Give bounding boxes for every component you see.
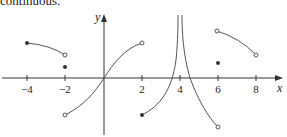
x-axis-label: x bbox=[276, 81, 283, 95]
curves bbox=[27, 15, 256, 127]
isolated-point bbox=[63, 65, 67, 69]
open-point bbox=[140, 41, 144, 45]
x-tick-labels: −4 −2 2 4 6 8 bbox=[21, 83, 259, 95]
tick-label: 8 bbox=[253, 83, 259, 95]
graph-canvas: −4 −2 2 4 6 8 x y bbox=[0, 0, 287, 137]
open-point bbox=[215, 29, 219, 33]
closed-point bbox=[140, 113, 144, 117]
segment-4 bbox=[182, 15, 218, 127]
tick-label: 2 bbox=[139, 83, 145, 95]
tick-label: −4 bbox=[21, 83, 33, 95]
piecewise-function-graph: continuous. −4 −2 2 4 6 8 x y bbox=[0, 0, 287, 137]
caption-text: continuous. bbox=[0, 0, 60, 9]
open-points bbox=[63, 29, 258, 129]
isolated-point bbox=[216, 61, 220, 65]
y-axis-label: y bbox=[94, 10, 101, 24]
y-axis-arrow-icon bbox=[101, 14, 107, 22]
open-point bbox=[63, 53, 67, 57]
segment-5 bbox=[217, 31, 256, 55]
segment-1 bbox=[27, 43, 65, 55]
closed-point bbox=[25, 41, 29, 45]
tick-label: −2 bbox=[59, 83, 71, 95]
open-point bbox=[216, 125, 220, 129]
tick-label: 4 bbox=[177, 83, 183, 95]
tick-label: 6 bbox=[215, 83, 221, 95]
open-point bbox=[63, 113, 67, 117]
open-point bbox=[254, 53, 258, 57]
segment-3 bbox=[142, 15, 178, 115]
